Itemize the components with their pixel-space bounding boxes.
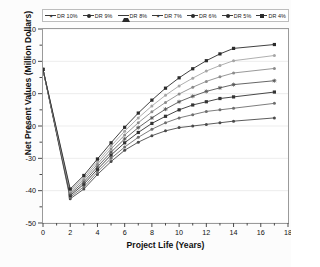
data-point bbox=[205, 100, 208, 103]
data-point bbox=[123, 141, 126, 144]
data-point bbox=[164, 107, 168, 111]
data-point bbox=[232, 83, 236, 87]
y-tick-label: -40 bbox=[26, 186, 36, 195]
data-point bbox=[178, 76, 181, 79]
data-point bbox=[273, 54, 276, 57]
data-point bbox=[232, 59, 235, 62]
data-point bbox=[136, 126, 140, 130]
data-point bbox=[273, 102, 276, 105]
legend-item-dr-9[interactable]: DR 9% bbox=[83, 12, 113, 19]
legend-item-dr-10[interactable]: ✶DR 10% bbox=[45, 12, 78, 19]
data-point bbox=[164, 101, 167, 104]
legend-item-dr-6[interactable]: DR 6% bbox=[187, 12, 217, 19]
data-point bbox=[218, 97, 221, 100]
data-point bbox=[272, 79, 276, 83]
data-point bbox=[218, 64, 221, 67]
data-point bbox=[178, 92, 181, 95]
data-point bbox=[164, 87, 167, 90]
series-line bbox=[43, 69, 274, 193]
data-point bbox=[110, 160, 113, 163]
x-tick-label: 10 bbox=[175, 228, 183, 237]
data-point bbox=[164, 129, 167, 132]
legend-label: DR 8% bbox=[130, 13, 148, 19]
legend-item-dr-7[interactable]: ✶DR 7% bbox=[152, 12, 182, 19]
data-point bbox=[191, 103, 194, 106]
data-point bbox=[137, 136, 140, 139]
legend-item-dr-5[interactable]: DR 5% bbox=[222, 12, 252, 19]
series-dr-7 bbox=[43, 67, 276, 195]
data-point bbox=[273, 90, 276, 93]
data-point bbox=[191, 113, 194, 116]
y-tick-label: -50 bbox=[26, 219, 36, 228]
dot-marker-icon bbox=[83, 12, 94, 19]
data-point bbox=[82, 174, 85, 177]
x-tick-label: 8 bbox=[150, 228, 154, 237]
legend-label: DR 9% bbox=[95, 13, 113, 19]
data-point bbox=[273, 67, 276, 70]
data-point bbox=[96, 157, 99, 160]
data-point bbox=[164, 121, 167, 124]
data-point bbox=[43, 68, 45, 71]
data-point bbox=[137, 121, 140, 124]
data-point bbox=[137, 116, 140, 119]
data-point bbox=[178, 84, 181, 87]
series-line bbox=[43, 69, 274, 195]
data-point bbox=[137, 131, 140, 134]
data-point bbox=[218, 108, 221, 111]
data-point bbox=[232, 71, 235, 74]
data-point bbox=[191, 77, 194, 80]
data-point bbox=[164, 94, 167, 97]
data-point bbox=[205, 80, 208, 83]
data-point bbox=[150, 134, 153, 137]
legend-label: DR 4% bbox=[268, 13, 286, 19]
data-point bbox=[123, 149, 126, 152]
legend-item-dr-8[interactable]: DR 8% bbox=[118, 12, 148, 19]
x-axis-title: Project Life (Years) bbox=[42, 240, 289, 250]
x-tick-label: 14 bbox=[230, 228, 238, 237]
x-tick-label: 12 bbox=[202, 228, 210, 237]
data-point bbox=[150, 122, 153, 125]
data-point bbox=[218, 86, 222, 90]
data-point bbox=[178, 116, 181, 119]
series-dr-10 bbox=[43, 68, 276, 200]
x-tick-label: 4 bbox=[95, 228, 99, 237]
triangle-marker-icon bbox=[118, 12, 129, 19]
series-line bbox=[43, 56, 274, 191]
dot-marker-icon bbox=[187, 12, 198, 19]
data-point bbox=[232, 107, 235, 110]
data-point bbox=[109, 141, 112, 144]
x-tick-label: 2 bbox=[68, 228, 72, 237]
y-axis-title: Net Present Values (Million Dollars) bbox=[23, 3, 33, 163]
data-point bbox=[137, 141, 140, 144]
data-point bbox=[191, 86, 194, 89]
data-point bbox=[150, 110, 153, 113]
data-point bbox=[205, 59, 208, 62]
data-point bbox=[205, 110, 208, 113]
data-point bbox=[150, 116, 154, 120]
data-point bbox=[205, 123, 208, 126]
legend-item-dr-4[interactable]: DR 4% bbox=[256, 12, 286, 19]
x-tick-label: 18 bbox=[284, 228, 291, 237]
square-marker-icon bbox=[256, 12, 267, 19]
data-point bbox=[191, 94, 195, 98]
data-point bbox=[150, 99, 153, 102]
data-point bbox=[123, 130, 126, 133]
data-point bbox=[273, 116, 276, 119]
data-point bbox=[164, 115, 167, 118]
series-dr-5 bbox=[43, 54, 276, 192]
series-dr-8 bbox=[43, 68, 276, 197]
data-point bbox=[232, 120, 235, 123]
data-point bbox=[218, 75, 221, 78]
data-point bbox=[150, 104, 153, 107]
data-point bbox=[110, 145, 113, 148]
data-point bbox=[110, 157, 113, 160]
series-line bbox=[43, 45, 274, 190]
data-point bbox=[273, 43, 276, 46]
x-tick-label: 16 bbox=[257, 228, 265, 237]
chart-svg bbox=[43, 29, 288, 223]
x-tick-label: 0 bbox=[41, 228, 45, 237]
data-point bbox=[204, 89, 208, 93]
data-point bbox=[123, 134, 126, 137]
data-point bbox=[232, 47, 235, 50]
legend-label: DR 6% bbox=[199, 13, 217, 19]
